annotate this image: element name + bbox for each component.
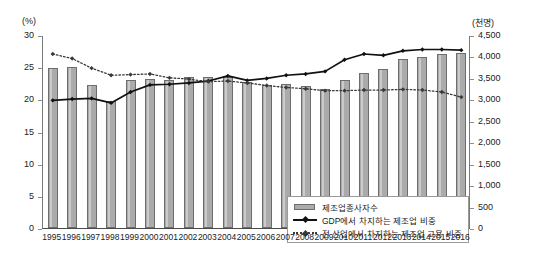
y2-axis-tick-label: 0	[478, 224, 512, 233]
dotted-line-path	[53, 54, 462, 97]
line-data-point	[362, 88, 366, 92]
line-data-point	[303, 72, 307, 76]
left-axis-unit-label: (%)	[22, 16, 36, 26]
y-axis-tick-label: 15	[8, 128, 34, 137]
y-axis-tick-label: 10	[8, 160, 34, 169]
legend-bar-swatch-icon	[292, 201, 318, 212]
line-data-point	[148, 72, 152, 76]
line-data-point	[401, 87, 405, 91]
line-data-point	[245, 81, 249, 85]
line-data-point	[323, 88, 327, 92]
line-data-point	[284, 85, 288, 89]
y2-axis-tick-label: 3,000	[478, 95, 512, 104]
line-data-point	[226, 79, 230, 83]
y-axis-tick-label: 0	[8, 224, 34, 233]
line-data-point	[420, 47, 424, 51]
legend-item-bar: 제조업종사자수	[292, 200, 462, 213]
line-data-point	[89, 66, 93, 70]
line-data-point	[265, 83, 269, 87]
line-data-point	[440, 47, 444, 51]
line-data-point	[303, 87, 307, 91]
line-data-point	[109, 73, 113, 77]
right-axis-unit-label: (천명)	[472, 16, 494, 29]
line-data-point	[70, 56, 74, 60]
line-data-point	[167, 82, 171, 86]
legend-item-solid-line: GDP에서 차지하는 제조업 비중	[292, 213, 462, 226]
y-axis-tick-label: 25	[8, 63, 34, 72]
line-data-point	[226, 74, 230, 78]
legend-label-bar: 제조업종사자수	[322, 201, 378, 213]
line-data-point	[362, 52, 366, 56]
y-axis-tick-label: 5	[8, 192, 34, 201]
line-data-point	[265, 76, 269, 80]
y-axis-tick-mark	[38, 229, 42, 230]
y2-axis-tick-label: 2,500	[478, 117, 512, 126]
line-data-point	[381, 53, 385, 57]
solid-line-path	[53, 50, 462, 103]
line-data-point	[51, 98, 55, 102]
line-data-point	[51, 52, 55, 56]
line-data-point	[459, 48, 463, 52]
y2-axis-tick-label: 1,000	[478, 181, 512, 190]
line-data-point	[89, 96, 93, 100]
x-axis-tick-label: 2016	[446, 233, 474, 242]
line-data-point	[148, 83, 152, 87]
y-axis-tick-label: 30	[8, 31, 34, 40]
y2-axis-tick-label: 3,500	[478, 74, 512, 83]
legend-solid-line-swatch-icon	[292, 214, 318, 225]
line-data-point	[440, 90, 444, 94]
y2-axis-tick-label: 4,500	[478, 31, 512, 40]
line-data-point	[128, 72, 132, 76]
plot-area: 제조업종사자수 GDP에서 차지하는 제조업 비중 전 산업에서 차지하는 제조…	[42, 36, 470, 229]
y2-axis-tick-label: 1,500	[478, 160, 512, 169]
legend-label-solid-line: GDP에서 차지하는 제조업 비중	[322, 214, 436, 226]
y2-axis-tick-label: 500	[478, 203, 512, 212]
y2-axis-tick-label: 2,000	[478, 138, 512, 147]
line-data-point	[420, 88, 424, 92]
line-data-point	[284, 73, 288, 77]
line-data-point	[167, 76, 171, 80]
line-data-point	[187, 77, 191, 81]
y2-axis-tick-label: 4,000	[478, 52, 512, 61]
line-data-point	[187, 81, 191, 85]
line-data-point	[342, 88, 346, 92]
y2-axis-tick-mark	[470, 229, 474, 230]
line-data-point	[381, 88, 385, 92]
line-data-point	[459, 95, 463, 99]
y-axis-tick-label: 20	[8, 95, 34, 104]
line-data-point	[401, 49, 405, 53]
manufacturing-employment-chart: (%) (천명) 051015202530 05001,0001,5002,00…	[0, 0, 534, 255]
line-data-point	[70, 97, 74, 101]
